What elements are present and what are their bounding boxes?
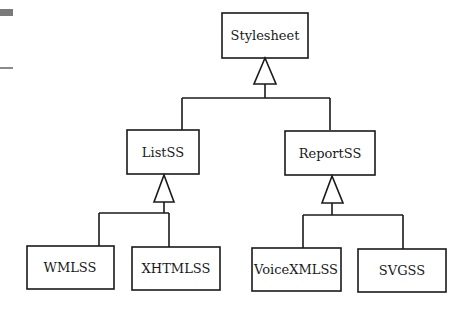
class-label-xhtmlss: XHTMLSS (142, 261, 211, 276)
class-label-stylesheet: Stylesheet (231, 28, 301, 43)
class-wmlss: WMLSS (27, 246, 114, 289)
class-stylesheet: Stylesheet (222, 13, 308, 58)
class-label-reportss: ReportSS (299, 146, 362, 161)
inheritance-triangle-icon (154, 175, 174, 202)
inheritance-triangle-icon (254, 58, 276, 84)
class-reportss: ReportSS (285, 131, 375, 175)
generalization-arrow-stylesheet (182, 58, 330, 130)
class-label-wmlss: WMLSS (44, 260, 97, 275)
class-listss: ListSS (127, 130, 199, 174)
class-label-voicexmlss: VoiceXMLSS (253, 262, 338, 277)
generalization-arrow-listss (99, 175, 174, 247)
class-svgss: SVGSS (358, 249, 446, 292)
class-label-listss: ListSS (142, 145, 184, 160)
class-xhtmlss: XHTMLSS (132, 247, 220, 290)
generalization-arrow-reportss (303, 176, 403, 249)
class-voicexmlss: VoiceXMLSS (252, 248, 341, 291)
class-label-svgss: SVGSS (379, 263, 425, 278)
inheritance-triangle-icon (322, 176, 343, 203)
class-diagram: Stylesheet ListSS ReportSS WMLSS (0, 0, 472, 313)
